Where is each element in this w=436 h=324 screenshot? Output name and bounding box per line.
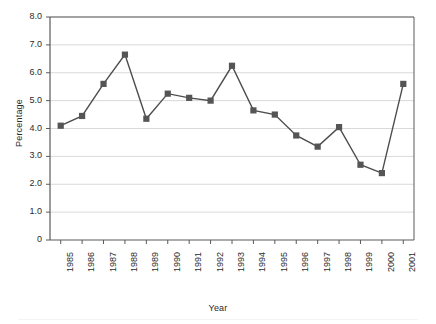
data-point-marker — [315, 144, 321, 150]
data-point-marker — [229, 63, 235, 69]
data-markers — [58, 52, 407, 177]
plot-area — [0, 0, 436, 324]
data-point-marker — [143, 116, 149, 122]
data-point-marker — [165, 91, 171, 97]
bottom-rule — [18, 319, 418, 320]
data-point-marker — [379, 170, 385, 176]
data-point-marker — [272, 111, 278, 117]
data-point-marker — [207, 98, 213, 104]
data-point-marker — [100, 81, 106, 87]
data-point-marker — [293, 132, 299, 138]
data-point-marker — [400, 81, 406, 87]
x-tick-marks — [61, 240, 404, 244]
data-point-marker — [79, 113, 85, 119]
gridlines — [50, 17, 414, 212]
data-point-marker — [250, 107, 256, 113]
data-point-marker — [58, 123, 64, 129]
data-point-marker — [336, 124, 342, 130]
data-point-marker — [186, 95, 192, 101]
line-chart: Percentage Year 8.07.06.05.04.03.02.01.0… — [0, 0, 436, 324]
data-point-marker — [357, 162, 363, 168]
data-point-marker — [122, 52, 128, 58]
